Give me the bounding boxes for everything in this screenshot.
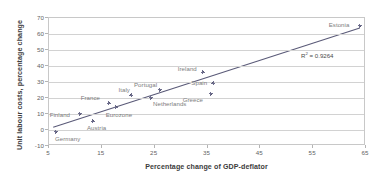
data-point-marker	[201, 70, 205, 74]
y-tick-label: -10	[18, 142, 44, 149]
x-axis-title: Percentage change of GDP-deflator	[48, 163, 365, 171]
x-tick-mark	[259, 145, 260, 148]
data-point-marker	[91, 119, 95, 123]
r-squared-annotation: R2 = 0.9264	[301, 51, 333, 59]
gridline-horizontal	[49, 114, 364, 115]
x-tick-label: 55	[309, 149, 316, 156]
x-tick-label: 15	[97, 149, 104, 156]
y-tick-mark	[45, 65, 48, 66]
data-point-marker	[54, 130, 58, 134]
y-tick-label: 30	[18, 78, 44, 85]
y-tick-mark	[45, 33, 48, 34]
x-tick-label: 25	[150, 149, 157, 156]
y-tick-label: 0	[18, 126, 44, 133]
x-tick-mark	[365, 145, 366, 148]
data-point-marker	[107, 101, 111, 105]
y-tick-label: 70	[18, 14, 44, 21]
data-point-label: Ireland	[178, 65, 197, 72]
gridline-horizontal	[49, 66, 364, 67]
gridline-horizontal	[49, 34, 364, 35]
x-tick-label: 35	[203, 149, 210, 156]
data-point-marker	[114, 105, 118, 109]
scatter-chart: Unit labour costs, percentage change Per…	[0, 0, 378, 183]
data-point-marker	[358, 24, 362, 28]
data-point-label: Spain	[191, 79, 207, 86]
data-point-label: Netherlands	[153, 100, 186, 107]
y-tick-label: 20	[18, 94, 44, 101]
y-tick-mark	[45, 81, 48, 82]
y-tick-label: 10	[18, 110, 44, 117]
x-tick-label: 5	[46, 149, 50, 156]
x-tick-mark	[207, 145, 208, 148]
data-point-marker	[78, 112, 82, 116]
data-point-label: Portugal	[134, 81, 157, 88]
data-point-label: Austria	[87, 124, 106, 131]
data-point-label: Greece	[183, 96, 203, 103]
y-tick-mark	[45, 49, 48, 50]
data-point-marker	[158, 88, 162, 92]
x-tick-mark	[101, 145, 102, 148]
y-tick-mark	[45, 17, 48, 18]
data-point-label: France	[81, 94, 100, 101]
x-tick-label: 65	[361, 149, 368, 156]
y-tick-mark	[45, 129, 48, 130]
y-tick-label: 50	[18, 46, 44, 53]
x-tick-label: 45	[256, 149, 263, 156]
data-point-label: Eurozone	[106, 111, 133, 118]
data-point-marker	[129, 93, 133, 97]
y-tick-mark	[45, 97, 48, 98]
data-point-label: Germany	[55, 135, 80, 142]
data-point-label: Italy	[118, 86, 129, 93]
data-point-marker	[211, 81, 215, 85]
data-point-marker	[209, 92, 213, 96]
x-tick-mark	[154, 145, 155, 148]
data-point-label: Finland	[50, 111, 70, 118]
x-tick-mark	[312, 145, 313, 148]
y-tick-mark	[45, 113, 48, 114]
data-point-label: Estonia	[329, 21, 350, 28]
y-tick-label: 40	[18, 62, 44, 69]
x-tick-mark	[48, 145, 49, 148]
y-tick-label: 60	[18, 30, 44, 37]
